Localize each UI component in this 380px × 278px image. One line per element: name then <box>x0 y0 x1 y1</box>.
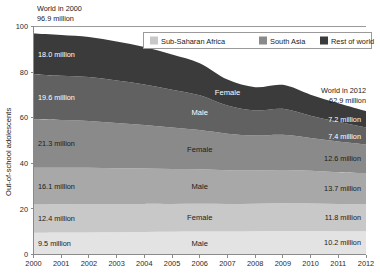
x-tick-label: 2001 <box>53 259 69 268</box>
band-gender-label: Female <box>187 145 212 154</box>
left-value-label: 16.1 million <box>38 182 75 191</box>
x-tick-label: 2006 <box>192 259 208 268</box>
right-value-label: 7.4 million <box>328 132 361 141</box>
legend: Sub-Saharan AfricaSouth AsiaRest of worl… <box>144 33 375 49</box>
x-tick-label: 2011 <box>330 259 346 268</box>
y-axis-title: Out-of-school adolescents <box>4 108 13 196</box>
band-gender-label: Female <box>187 213 212 222</box>
x-tick-label: 2002 <box>81 259 97 268</box>
y-tick-label: 0 <box>24 250 28 259</box>
annotation-world-2000-line2: 96.9 million <box>37 14 74 23</box>
legend-label: Rest of world <box>331 37 374 46</box>
legend-label: South Asia <box>270 37 306 46</box>
y-tick-label: 80 <box>20 68 28 77</box>
legend-swatch <box>259 37 267 45</box>
band-gender-label: Male <box>192 239 208 248</box>
x-tick-label: 2007 <box>219 259 235 268</box>
right-value-label: 10.2 million <box>324 238 361 247</box>
x-tick-label: 2005 <box>164 259 180 268</box>
x-tick-label: 2009 <box>275 259 291 268</box>
annotation-world-2012-line2: 62.9 million <box>329 96 366 105</box>
left-value-label: 21.3 million <box>38 139 75 148</box>
left-value-label: 18.0 million <box>38 50 75 59</box>
annotation-world-2000-line1: World in 2000 <box>37 4 82 13</box>
x-tick-label: 2000 <box>25 259 41 268</box>
band-gender-label: Female <box>215 88 240 97</box>
right-value-label: 12.6 million <box>324 154 361 163</box>
chart-svg: 020406080100 200020012002200320042005200… <box>0 0 380 278</box>
y-tick-label: 20 <box>20 205 28 214</box>
stacked-area-chart: 020406080100 200020012002200320042005200… <box>0 0 380 278</box>
x-tick-label: 2010 <box>302 259 318 268</box>
x-tick-label: 2004 <box>136 259 152 268</box>
legend-items-group: Sub-Saharan AfricaSouth AsiaRest of worl… <box>150 37 374 46</box>
x-tick-label: 2008 <box>247 259 263 268</box>
right-value-label: 13.7 million <box>324 184 361 193</box>
right-value-label: 7.2 million <box>328 115 361 124</box>
legend-label: Sub-Saharan Africa <box>161 37 226 46</box>
legend-swatch <box>320 37 328 45</box>
y-tick-label: 100 <box>16 22 28 31</box>
legend-swatch <box>150 37 158 45</box>
left-value-label: 12.4 million <box>38 214 75 223</box>
left-value-label: 19.6 million <box>38 93 75 102</box>
band-gender-label: Male <box>192 108 208 117</box>
y-tick-label: 60 <box>20 113 28 122</box>
annotation-world-2012-line1: World in 2012 <box>321 86 366 95</box>
band-gender-label: Male <box>192 182 208 191</box>
y-tick-label: 40 <box>20 159 28 168</box>
right-value-label: 11.8 million <box>325 213 361 222</box>
left-value-label: 9.5 million <box>38 239 71 248</box>
x-tick-label: 2003 <box>108 259 124 268</box>
x-tick-label: 2012 <box>358 259 374 268</box>
